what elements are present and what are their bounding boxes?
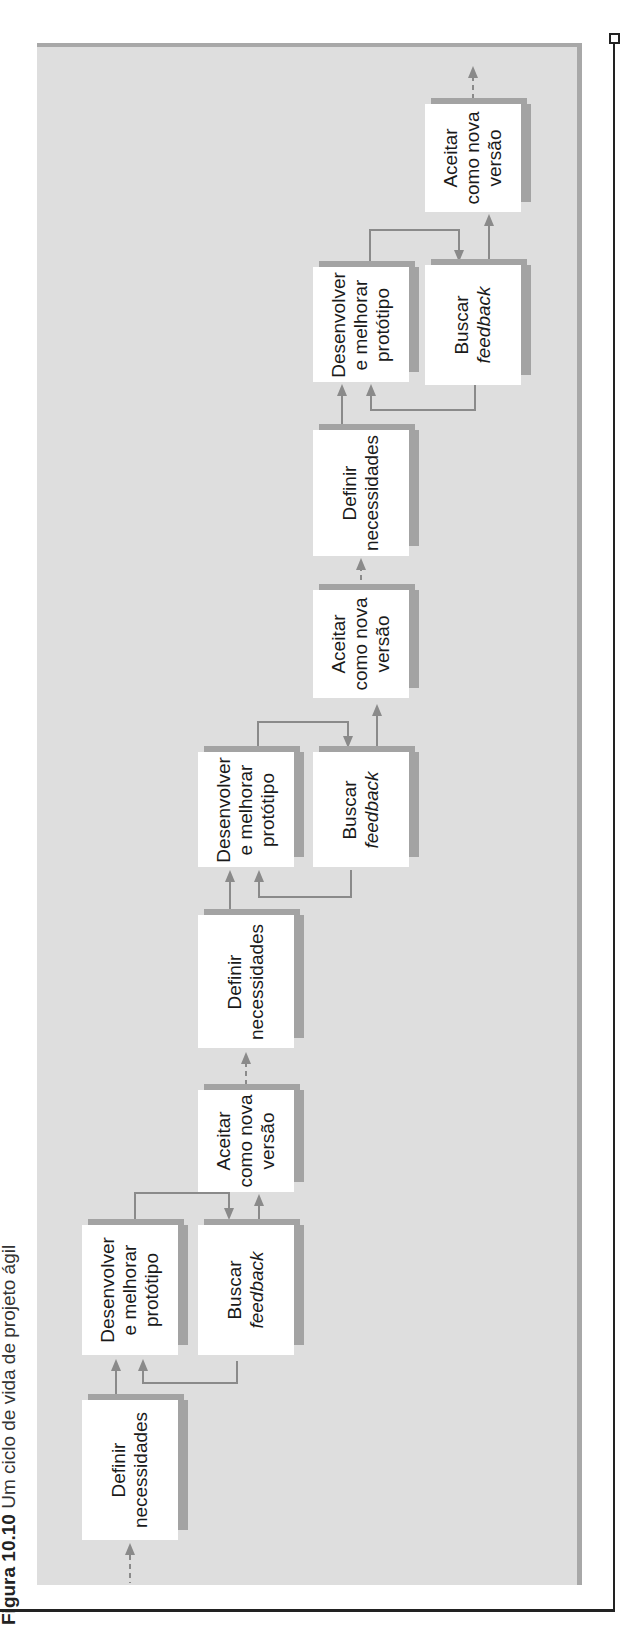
box-shadow xyxy=(204,1084,300,1090)
box-label: Aceitar como nova versão xyxy=(328,598,394,691)
box-shadow xyxy=(319,584,415,590)
connector-line xyxy=(115,1367,117,1394)
loop-line xyxy=(236,1361,238,1383)
box-shadow xyxy=(319,746,415,752)
box-label: Definir necessidades xyxy=(108,1412,152,1528)
loop-line xyxy=(369,229,371,261)
page-frame-bottom xyxy=(0,1609,615,1612)
box-develop-prototype-1: Desenvolver e melhorar protótipo xyxy=(82,1225,178,1355)
label-line: necessidades xyxy=(130,1412,152,1528)
box-define-needs-2: Definir necessidades xyxy=(198,915,294,1048)
page-frame-right xyxy=(613,38,615,1611)
label-line: Aceitar xyxy=(440,112,462,205)
loop-line xyxy=(257,721,349,723)
label-line: Definir xyxy=(339,435,361,551)
loop-line xyxy=(258,880,260,898)
box-shadow xyxy=(431,259,527,265)
box-shadow xyxy=(409,752,419,857)
loop-line xyxy=(370,409,476,411)
box-shadow xyxy=(409,267,419,372)
label-line: como nova xyxy=(235,1095,257,1188)
label-line: feedback xyxy=(246,1251,267,1328)
box-shadow xyxy=(319,261,415,267)
box-label: Definir necessidades xyxy=(339,435,383,551)
label-line: Buscar xyxy=(339,771,361,848)
arrow-up-icon xyxy=(138,1359,148,1371)
box-define-needs-1: Definir necessidades xyxy=(82,1400,178,1540)
box-shadow xyxy=(294,1090,304,1182)
box-label: Definir necessidades xyxy=(224,923,268,1039)
loop-line xyxy=(350,870,352,898)
arrow-up-icon xyxy=(484,214,494,226)
connector-line xyxy=(229,878,231,909)
box-label: Buscar feedback xyxy=(224,1251,268,1328)
label-line: feedback xyxy=(473,286,494,363)
box-shadow xyxy=(409,590,419,688)
box-shadow xyxy=(431,98,527,104)
figure-caption: Figura 10.10 Um ciclo de vida de projeto… xyxy=(0,1245,20,1625)
label-line: versão xyxy=(372,598,394,691)
box-shadow xyxy=(521,265,531,375)
label-line: protótipo xyxy=(141,1237,163,1343)
box-accept-version-1: Aceitar como nova versão xyxy=(198,1090,294,1192)
loop-line xyxy=(370,394,372,411)
box-shadow xyxy=(294,915,304,1038)
box-shadow xyxy=(521,104,531,202)
label-line: e melhorar xyxy=(235,757,257,863)
box-seek-feedback-3: Buscar feedback xyxy=(425,265,521,385)
exit-arrow-icon xyxy=(468,66,478,78)
arrow-up-icon xyxy=(241,1052,251,1064)
label-line: versão xyxy=(257,1095,279,1188)
box-label: Aceitar como nova versão xyxy=(213,1095,279,1188)
label-line: Definir xyxy=(108,1412,130,1528)
box-seek-feedback-1: Buscar feedback xyxy=(198,1225,294,1355)
connector-line xyxy=(341,392,343,424)
arrow-up-icon xyxy=(254,1194,264,1206)
box-shadow xyxy=(294,752,304,857)
box-label: Buscar feedback xyxy=(339,771,383,848)
label-line: e melhorar xyxy=(350,272,372,378)
label-line: necessidades xyxy=(361,435,383,551)
box-label: Desenvolver e melhorar protótipo xyxy=(97,1237,163,1343)
box-develop-prototype-3: Desenvolver e melhorar protótipo xyxy=(313,267,409,382)
box-define-needs-3: Definir necessidades xyxy=(313,430,409,556)
loop-line xyxy=(134,1192,136,1219)
arrow-up-icon xyxy=(337,384,347,396)
label-line: Desenvolver xyxy=(328,272,350,378)
arrow-up-icon xyxy=(111,1359,121,1371)
entry-dashed-line xyxy=(129,1555,131,1583)
box-label: Aceitar como nova versão xyxy=(440,112,506,205)
label-line: protótipo xyxy=(372,272,394,378)
box-shadow xyxy=(88,1394,184,1400)
box-shadow xyxy=(88,1219,184,1225)
box-shadow xyxy=(409,430,419,546)
box-accept-version-2: Aceitar como nova versão xyxy=(313,590,409,698)
label-line: versão xyxy=(484,112,506,205)
loop-line xyxy=(258,896,352,898)
exit-dashed-line xyxy=(472,76,474,98)
box-shadow xyxy=(204,909,300,915)
frame-corner-marker xyxy=(609,33,620,44)
box-shadow xyxy=(204,746,300,752)
arrow-up-icon xyxy=(366,384,376,396)
connector-line xyxy=(488,222,490,259)
label-line: feedback xyxy=(361,771,382,848)
loop-line xyxy=(134,1192,230,1194)
arrow-up-icon xyxy=(254,870,264,882)
connector-line xyxy=(376,712,378,746)
arrow-up-icon xyxy=(225,870,235,882)
loop-line xyxy=(369,229,460,231)
box-label: Desenvolver e melhorar protótipo xyxy=(328,272,394,378)
label-line: Buscar xyxy=(451,286,473,363)
loop-line xyxy=(474,385,476,411)
label-line: Desenvolver xyxy=(213,757,235,863)
box-label: Buscar feedback xyxy=(451,286,495,363)
dashed-connector xyxy=(245,1062,247,1084)
label-line: Desenvolver xyxy=(97,1237,119,1343)
label-line: como nova xyxy=(462,112,484,205)
entry-arrow-icon xyxy=(125,1543,135,1555)
label-line: como nova xyxy=(350,598,372,691)
arrow-up-icon xyxy=(372,704,382,716)
box-label: Desenvolver e melhorar protótipo xyxy=(213,757,279,863)
label-line: protótipo xyxy=(257,757,279,863)
